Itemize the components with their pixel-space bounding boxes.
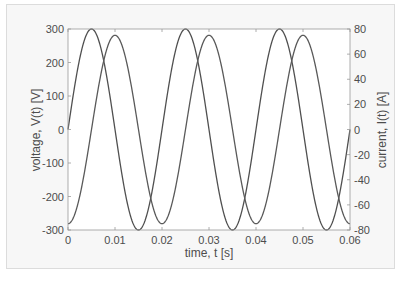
y-right-tick-label: 40 xyxy=(354,73,366,85)
y-left-tick-label: 0 xyxy=(58,124,64,136)
y-right-tick-label: 80 xyxy=(354,23,366,35)
y-axis-left-label: voltage, V(t) [V] xyxy=(29,89,43,172)
y-right-tick-label: 20 xyxy=(354,98,366,110)
y-axis-left: -300-200-1000100200300 xyxy=(42,23,71,236)
y-right-tick-label: 60 xyxy=(354,48,366,60)
y-axis-right: -80-60-40-20020406080 xyxy=(347,23,370,236)
y-right-tick-label: -40 xyxy=(354,174,370,186)
y-left-tick-label: -300 xyxy=(42,224,64,236)
y-right-tick-label: -80 xyxy=(354,224,370,236)
x-tick-label: 0.02 xyxy=(151,234,172,246)
x-tick-label: 0.01 xyxy=(104,234,125,246)
y-right-tick-label: 0 xyxy=(354,124,360,136)
y-right-tick-label: -20 xyxy=(354,149,370,161)
y-left-tick-label: -200 xyxy=(42,191,64,203)
y-left-tick-label: -100 xyxy=(42,157,64,169)
x-axis-label: time, t [s] xyxy=(185,246,234,260)
y-left-tick-label: 200 xyxy=(46,57,64,69)
y-axis-right-label: current, I(t) [A] xyxy=(375,92,389,169)
y-left-tick-label: 100 xyxy=(46,90,64,102)
y-right-tick-label: -60 xyxy=(354,199,370,211)
x-tick-label: 0.04 xyxy=(245,234,266,246)
x-tick-label: 0 xyxy=(65,234,71,246)
x-tick-label: 0.03 xyxy=(198,234,219,246)
y-left-tick-label: 300 xyxy=(46,23,64,35)
chart: 00.010.020.030.040.050.06 -300-200-10001… xyxy=(0,0,401,283)
x-tick-label: 0.05 xyxy=(292,234,313,246)
